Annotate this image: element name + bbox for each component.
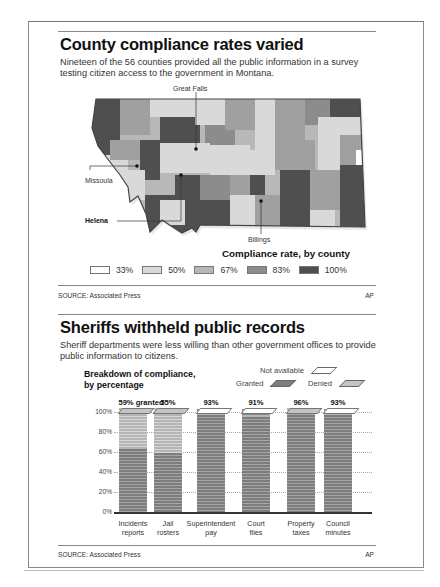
segment-denied bbox=[242, 415, 270, 417]
section2-credit: AP bbox=[365, 551, 374, 558]
x-axis-label: Councilminutes bbox=[308, 519, 368, 537]
legend-swatch bbox=[90, 266, 110, 274]
x-axis bbox=[114, 512, 372, 514]
legend-label: Granted bbox=[236, 379, 263, 388]
section1-credit: AP bbox=[365, 292, 374, 299]
segment-granted bbox=[197, 415, 225, 512]
legend-swatch bbox=[299, 266, 319, 274]
bar-court-files bbox=[242, 412, 270, 516]
chart-heading-line1: Breakdown of compliance, bbox=[84, 369, 195, 380]
legend-swatch bbox=[247, 266, 267, 274]
bar-jail-rosters bbox=[154, 412, 182, 516]
section1-source: SOURCE: Associated Press bbox=[58, 292, 140, 299]
map-label-great-falls: Great Falls bbox=[173, 85, 207, 92]
legend-not-available: Not available bbox=[260, 366, 334, 375]
section2-subtitle: Sheriff departments were less willing th… bbox=[60, 340, 380, 362]
legend-item-33: 33% bbox=[90, 265, 133, 275]
legend-item-50: 50% bbox=[142, 265, 185, 275]
bar-cap bbox=[285, 408, 322, 414]
legend-label: 67% bbox=[220, 265, 237, 275]
bar-incidents-reports bbox=[119, 412, 147, 516]
segment-denied bbox=[154, 408, 182, 453]
segment-granted bbox=[154, 453, 182, 512]
section2-title: Sheriffs withheld public records bbox=[60, 318, 305, 337]
section2-bottom-rule bbox=[58, 545, 376, 546]
bar-cap bbox=[195, 408, 232, 414]
bar-value-label: 93% bbox=[303, 398, 373, 407]
map-label-billings: Billings bbox=[248, 236, 270, 243]
chart-heading-line2: by percentage bbox=[84, 380, 195, 391]
legend-label: 83% bbox=[273, 265, 290, 275]
granted-swatch bbox=[270, 380, 297, 387]
section1-bottom-rule bbox=[58, 285, 376, 286]
legend-item-83: 83% bbox=[247, 265, 290, 275]
map-label-helena: Helena bbox=[85, 217, 108, 224]
legend-item-100: 100% bbox=[299, 265, 347, 275]
map-legend: 33% 50% 67% 83% 100% bbox=[90, 265, 347, 275]
bar-cap bbox=[117, 408, 154, 414]
map-label-missoula: Missoula bbox=[85, 177, 113, 184]
y-tick: 100% bbox=[86, 408, 112, 415]
bar-council-minutes bbox=[324, 412, 352, 516]
legend-label: 50% bbox=[168, 265, 185, 275]
section2-source: SOURCE: Associated Press bbox=[58, 551, 140, 558]
legend-label: Not available bbox=[260, 366, 304, 375]
y-tick: 20% bbox=[86, 488, 112, 495]
bar-cap bbox=[322, 408, 359, 414]
bar-cap bbox=[152, 408, 189, 414]
legend-label: 33% bbox=[116, 265, 133, 275]
map-legend-title: Compliance rate, by county bbox=[222, 248, 350, 259]
denied-swatch bbox=[339, 380, 366, 387]
y-tick: 80% bbox=[86, 428, 112, 435]
chart-heading: Breakdown of compliance, by percentage bbox=[84, 369, 195, 391]
section2-top-rule bbox=[58, 314, 376, 315]
y-tick: 60% bbox=[86, 448, 112, 455]
legend-granted: Granted bbox=[236, 379, 293, 388]
legend-label: 100% bbox=[325, 265, 347, 275]
legend-label: Denied bbox=[308, 379, 332, 388]
legend-item-67: 67% bbox=[194, 265, 237, 275]
legend-denied: Denied bbox=[308, 379, 362, 388]
segment-denied bbox=[119, 408, 147, 449]
segment-granted bbox=[324, 415, 352, 512]
montana-map: Great Falls Missoula Helena Billings bbox=[0, 0, 440, 260]
segment-granted bbox=[242, 417, 270, 512]
legend-swatch bbox=[142, 266, 162, 274]
legend-swatch bbox=[194, 266, 214, 274]
segment-granted bbox=[287, 412, 315, 512]
segment-granted bbox=[119, 449, 147, 512]
page-divider bbox=[24, 570, 424, 571]
bar-superintendent-pay bbox=[197, 412, 225, 516]
y-tick: 40% bbox=[86, 468, 112, 475]
bar-cap bbox=[240, 408, 277, 414]
y-tick: 0% bbox=[86, 508, 112, 515]
bar-property-taxes bbox=[287, 412, 315, 516]
not-available-swatch bbox=[310, 367, 337, 374]
